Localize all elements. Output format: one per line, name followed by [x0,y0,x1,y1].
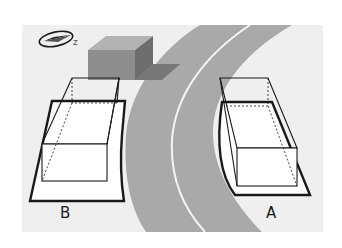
space-label-a: A [266,206,276,221]
space-label-b: B [60,206,70,221]
compass-letter: z [73,38,78,47]
diagram-canvas: z B A [0,0,342,248]
